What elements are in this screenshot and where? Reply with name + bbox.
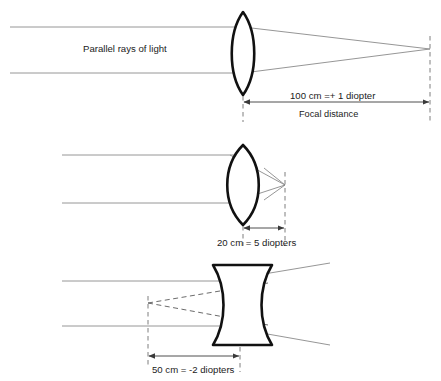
focal-distance-caption: Focal distance bbox=[299, 109, 358, 119]
refracted-ray-top bbox=[243, 27, 430, 49]
parallel-rays-label: Parallel rays of light bbox=[83, 43, 167, 54]
refracted-ray-inner-top-2 bbox=[264, 168, 285, 185]
diagram-convex-weak: Parallel rays of light 100 cm =+ 1 diopt… bbox=[10, 12, 430, 122]
focal-length-label-1: 100 cm =+ 1 diopter bbox=[290, 90, 376, 101]
biconcave-lens bbox=[213, 265, 272, 345]
biconvex-lens-weak bbox=[232, 12, 255, 95]
refracted-ray-inner-bottom-2 bbox=[264, 185, 285, 200]
diagram-concave: 50 cm = -2 diopters bbox=[62, 263, 330, 375]
optics-diagram-figure: Parallel rays of light 100 cm =+ 1 diopt… bbox=[0, 0, 441, 381]
focal-length-label-2: 20 cm = 5 diopters bbox=[217, 237, 296, 248]
refracted-ray-bottom bbox=[243, 49, 430, 73]
focal-length-label-3: 50 cm = -2 diopters bbox=[152, 364, 235, 375]
optics-diagram-canvas: Parallel rays of light 100 cm =+ 1 diopt… bbox=[0, 0, 441, 381]
diagram-convex-strong: 20 cm = 5 diopters bbox=[62, 145, 296, 248]
biconvex-lens-strong bbox=[227, 145, 259, 225]
